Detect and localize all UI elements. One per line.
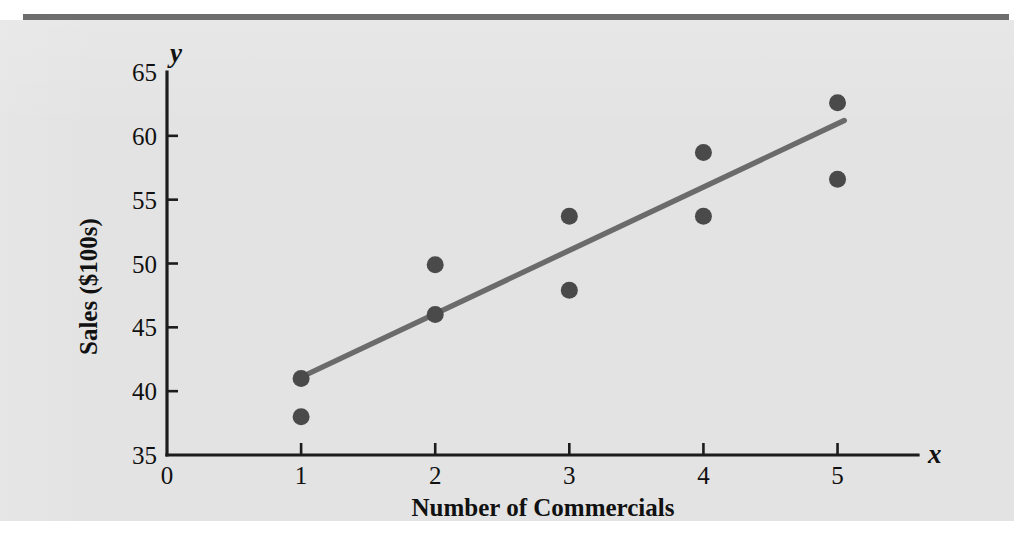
y-tick-label: 50 bbox=[105, 252, 157, 277]
figure-container: 35404550556065 012345 y x Number of Comm… bbox=[0, 0, 1029, 546]
data-point bbox=[561, 208, 578, 225]
y-tick-label: 65 bbox=[105, 60, 157, 85]
data-point bbox=[293, 370, 310, 387]
data-point bbox=[561, 282, 578, 299]
y-tick-label: 60 bbox=[105, 124, 157, 149]
data-point bbox=[829, 171, 846, 188]
x-tick-label: 3 bbox=[549, 463, 589, 488]
x-axis-variable-letter: x bbox=[928, 441, 942, 468]
regression-trend-line bbox=[301, 121, 844, 378]
data-point bbox=[695, 208, 712, 225]
x-tick-label: 5 bbox=[818, 463, 858, 488]
data-point-markers bbox=[293, 94, 846, 425]
x-axis-title: Number of Commercials bbox=[343, 495, 743, 520]
data-point bbox=[427, 306, 444, 323]
x-tick-label: 1 bbox=[281, 463, 321, 488]
data-point bbox=[427, 256, 444, 273]
x-tick-label: 0 bbox=[147, 463, 187, 488]
y-tick-label: 40 bbox=[105, 379, 157, 404]
y-axis-variable-letter: y bbox=[170, 40, 182, 67]
y-tick-label: 45 bbox=[105, 315, 157, 340]
y-axis-title: Sales ($100s) bbox=[76, 218, 101, 355]
y-tick-marks bbox=[167, 136, 178, 391]
y-tick-label: 55 bbox=[105, 188, 157, 213]
x-tick-marks bbox=[301, 443, 837, 455]
x-tick-label: 2 bbox=[415, 463, 455, 488]
data-point bbox=[695, 144, 712, 161]
x-tick-label: 4 bbox=[683, 463, 723, 488]
data-point bbox=[293, 408, 310, 425]
data-point bbox=[829, 94, 846, 111]
